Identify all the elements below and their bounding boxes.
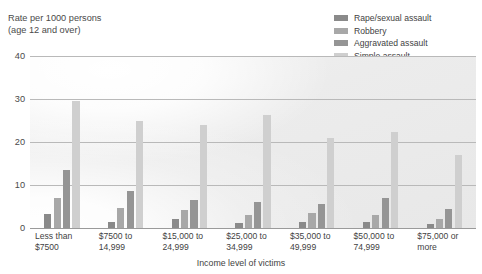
bar[interactable] [235, 223, 242, 228]
bar[interactable] [299, 222, 306, 228]
x-axis-tick-label: $15,000 to 24,999 [157, 231, 221, 259]
bar[interactable] [117, 208, 124, 228]
x-axis-tick-label: Less than $7500 [30, 231, 94, 259]
legend-item-label: Robbery [354, 26, 386, 36]
bar-groups [30, 56, 476, 228]
legend-item-label: Rape/sexual assault [354, 13, 431, 23]
bar[interactable] [108, 222, 115, 228]
x-axis-tick-label: $7500 to 14,999 [94, 231, 158, 259]
y-axis-tick-label: 40 [15, 51, 25, 61]
x-axis-tick-label: $75,000 or more [412, 231, 476, 259]
legend-item[interactable]: Robbery [334, 25, 431, 38]
bar-group [412, 56, 476, 228]
bar[interactable] [363, 222, 370, 228]
bar[interactable] [254, 202, 261, 228]
bar[interactable] [190, 200, 197, 228]
bar[interactable] [372, 215, 379, 228]
y-axis-title: Rate per 1000 persons (age 12 and over) [8, 13, 101, 36]
bar[interactable] [308, 213, 315, 228]
bar[interactable] [436, 219, 443, 228]
bar[interactable] [318, 204, 325, 228]
x-axis-labels: Less than $7500$7500 to 14,999$15,000 to… [30, 231, 476, 259]
bar[interactable] [127, 191, 134, 228]
legend-swatch-icon [334, 40, 348, 46]
bar-chart: Rate per 1000 persons (age 12 and over) … [0, 0, 482, 274]
y-axis-tick-label: 10 [15, 180, 25, 190]
bar-group [285, 56, 349, 228]
bar[interactable] [327, 138, 334, 228]
bar[interactable] [200, 125, 207, 228]
x-axis-tick-label: $25,000 to 34,999 [221, 231, 285, 259]
bar[interactable] [245, 215, 252, 228]
x-axis-title: Income level of victims [0, 258, 482, 268]
bar-group [221, 56, 285, 228]
y-axis-tick-label: 0 [20, 223, 25, 233]
chart-legend: Rape/sexual assaultRobberyAggravated ass… [334, 12, 431, 62]
bar[interactable] [136, 121, 143, 229]
x-axis-tick-label: $35,000 to 49,999 [285, 231, 349, 259]
legend-swatch-icon [334, 28, 348, 34]
bar[interactable] [391, 132, 398, 228]
legend-item-label: Aggravated assault [354, 38, 428, 48]
bar[interactable] [44, 214, 51, 228]
bar-group [349, 56, 413, 228]
bar[interactable] [427, 224, 434, 228]
bar[interactable] [72, 101, 79, 228]
gridline [30, 228, 476, 229]
legend-item[interactable]: Aggravated assault [334, 37, 431, 50]
bar[interactable] [54, 198, 61, 228]
bar[interactable] [172, 219, 179, 228]
bar[interactable] [455, 155, 462, 228]
bar[interactable] [445, 209, 452, 228]
y-axis-tick-label: 30 [15, 94, 25, 104]
bar[interactable] [382, 198, 389, 228]
bar-group [94, 56, 158, 228]
bar-group [157, 56, 221, 228]
legend-swatch-icon [334, 15, 348, 21]
bar[interactable] [181, 210, 188, 228]
bar[interactable] [63, 170, 70, 228]
legend-item[interactable]: Rape/sexual assault [334, 12, 431, 25]
x-axis-tick-label: $50,000 to 74,999 [349, 231, 413, 259]
plot-area: 010203040 [30, 56, 476, 228]
y-axis-tick-label: 20 [15, 137, 25, 147]
bar-group [30, 56, 94, 228]
bar[interactable] [263, 115, 270, 228]
